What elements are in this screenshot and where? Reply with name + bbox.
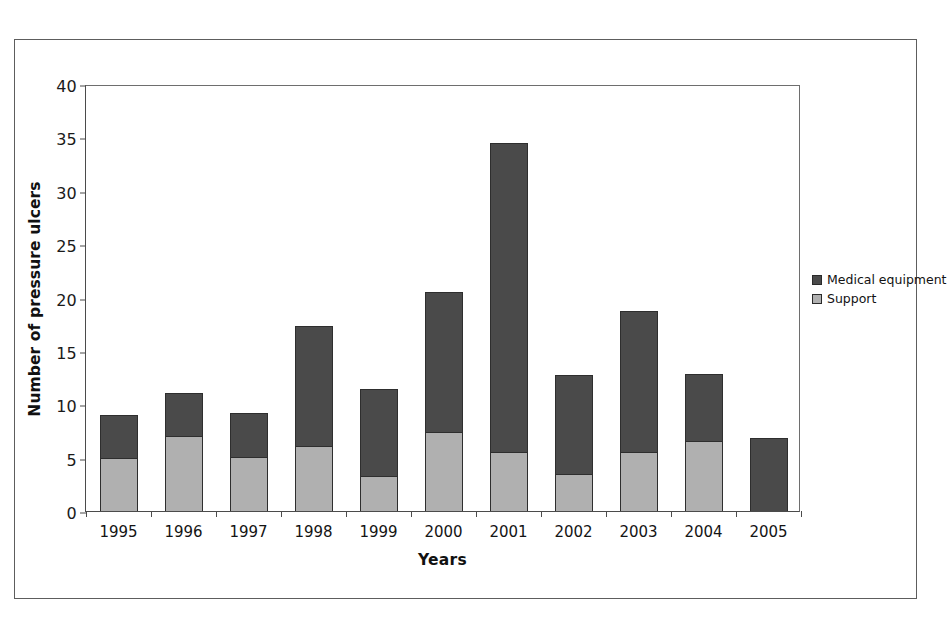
chart-legend: Medical equipmentSupport — [812, 272, 947, 306]
x-tick-mark — [476, 511, 477, 517]
x-tick-mark — [151, 511, 152, 517]
x-tick-mark — [606, 511, 607, 517]
y-axis-title-text: Number of pressure ulcers — [26, 181, 44, 416]
bar-segment-medical-equipment — [750, 438, 788, 511]
bar-segment-support — [555, 474, 593, 511]
y-tick-label: 5 — [67, 450, 77, 469]
bar-group — [295, 326, 333, 511]
plot-area: 0510152025303540 19951996199719981999200… — [85, 85, 800, 512]
x-tick-label: 2005 — [749, 523, 787, 541]
x-tick-label: 2000 — [424, 523, 462, 541]
y-tick-label: 20 — [56, 290, 77, 309]
bar-group — [425, 292, 463, 511]
y-tick-label: 10 — [56, 397, 77, 416]
legend-swatch-icon — [812, 294, 822, 304]
x-axis-title: Years — [85, 551, 800, 569]
bar-group — [555, 375, 593, 511]
y-tick-label: 25 — [56, 237, 77, 256]
bar-segment-medical-equipment — [555, 375, 593, 473]
x-tick-mark — [281, 511, 282, 517]
bar-segment-support — [360, 476, 398, 511]
y-tick-label: 15 — [56, 343, 77, 362]
x-tick-label: 1998 — [294, 523, 332, 541]
x-tick-label: 2001 — [489, 523, 527, 541]
bar-group — [750, 438, 788, 511]
bar-group — [620, 311, 658, 511]
bar-segment-support — [685, 441, 723, 511]
x-tick-mark — [216, 511, 217, 517]
x-tick-mark — [801, 511, 802, 517]
bar-group — [360, 389, 398, 511]
y-axis-title: Number of pressure ulcers — [22, 85, 48, 512]
bars-layer — [86, 86, 799, 511]
bar-segment-support — [490, 452, 528, 511]
y-tick-label: 35 — [56, 130, 77, 149]
bar-segment-support — [100, 458, 138, 511]
x-tick-label: 1997 — [229, 523, 267, 541]
bar-segment-medical-equipment — [685, 374, 723, 440]
x-tick-label: 2003 — [619, 523, 657, 541]
x-tick-mark — [671, 511, 672, 517]
x-tick-label: 1996 — [164, 523, 202, 541]
bar-segment-support — [295, 446, 333, 511]
bar-segment-medical-equipment — [230, 413, 268, 457]
bar-segment-support — [425, 432, 463, 511]
x-tick-label: 2002 — [554, 523, 592, 541]
bar-segment-medical-equipment — [425, 292, 463, 432]
x-tick-label: 2004 — [684, 523, 722, 541]
x-tick-mark — [541, 511, 542, 517]
legend-item-label: Medical equipment — [827, 272, 947, 287]
y-tick-label: 0 — [67, 504, 77, 523]
bar-segment-support — [230, 457, 268, 511]
x-tick-mark — [411, 511, 412, 517]
legend-item-label: Support — [827, 291, 876, 306]
bar-group — [230, 413, 268, 511]
legend-swatch-icon — [812, 275, 822, 285]
bar-group — [490, 143, 528, 511]
bar-segment-medical-equipment — [360, 389, 398, 475]
bar-group — [165, 393, 203, 511]
x-tick-label: 1999 — [359, 523, 397, 541]
legend-item: Medical equipment — [812, 272, 947, 287]
bar-segment-support — [620, 452, 658, 511]
y-tick-label: 30 — [56, 183, 77, 202]
y-tick-label: 40 — [56, 77, 77, 96]
bar-segment-medical-equipment — [165, 393, 203, 437]
bar-group — [100, 415, 138, 511]
x-tick-label: 1995 — [99, 523, 137, 541]
bar-segment-medical-equipment — [295, 326, 333, 446]
legend-item: Support — [812, 291, 947, 306]
bar-group — [685, 374, 723, 511]
x-tick-mark — [86, 511, 87, 517]
bar-segment-support — [165, 436, 203, 511]
bar-segment-medical-equipment — [100, 415, 138, 458]
bar-segment-medical-equipment — [620, 311, 658, 452]
x-tick-mark — [346, 511, 347, 517]
bar-segment-medical-equipment — [490, 143, 528, 453]
x-tick-mark — [736, 511, 737, 517]
